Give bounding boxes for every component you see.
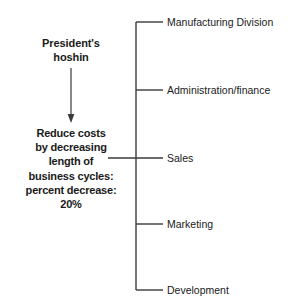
presidents-hoshin-title: President's hoshin [6, 36, 136, 64]
branch-label-marketing: Marketing [167, 218, 213, 230]
branch-label-development: Development [167, 284, 229, 296]
branch-label-manufacturing: Manufacturing Division [167, 16, 273, 28]
objective-line-5: percent decrease: [2, 183, 140, 197]
objective-line-3: length of [2, 154, 140, 168]
objective-line-1: Reduce costs [2, 126, 140, 140]
branch-label-sales: Sales [167, 152, 193, 164]
deployment-arrow-head [68, 114, 75, 123]
objective-text-block: Reduce costs by decreasing length of bus… [2, 126, 140, 211]
objective-line-2: by decreasing [2, 140, 140, 154]
branch-label-administration: Administration/finance [167, 84, 270, 96]
objective-line-6: 20% [2, 197, 140, 211]
hoshin-diagram: President's hoshin Reduce costs by decre… [0, 0, 290, 308]
presidents-hoshin-line-1: President's [6, 36, 136, 50]
objective-line-4: business cycles: [2, 169, 140, 183]
presidents-hoshin-line-2: hoshin [6, 50, 136, 64]
